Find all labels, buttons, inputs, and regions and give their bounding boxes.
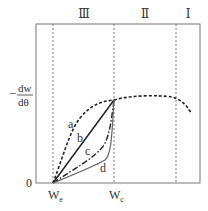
x-tick-wc: Wc xyxy=(109,188,124,204)
y-axis-sign: − xyxy=(9,86,16,101)
y-axis-denominator: dθ xyxy=(18,96,29,108)
curve-label-a: a xyxy=(68,117,74,131)
drying-rate-diagram: a b c d Ⅲ Ⅱ Ⅰ − dw dθ 0 We Wc xyxy=(0,0,208,211)
y-axis-numerator: dw xyxy=(18,82,32,94)
region-label-3: Ⅲ xyxy=(78,7,90,21)
plateau-curve xyxy=(114,96,191,113)
curve-label-b: b xyxy=(77,131,83,145)
x-tick-we: We xyxy=(48,188,63,204)
region-label-1: Ⅰ xyxy=(186,7,191,21)
plot-frame xyxy=(36,24,200,183)
curve-label-d: d xyxy=(100,161,106,175)
region-label-2: Ⅱ xyxy=(141,7,149,21)
origin-label: 0 xyxy=(26,176,32,190)
curve-label-c: c xyxy=(85,144,90,158)
